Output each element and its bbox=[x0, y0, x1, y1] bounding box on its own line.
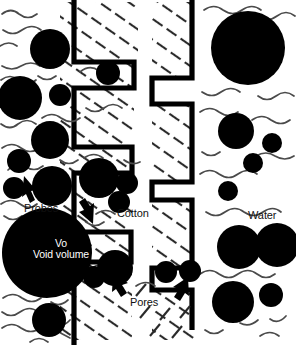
probe-circle-large bbox=[211, 11, 285, 85]
label-void-volume: Vo Void volume bbox=[8, 238, 114, 260]
probe-circle bbox=[218, 113, 254, 149]
probe-circle bbox=[7, 149, 31, 173]
probe-circle bbox=[259, 283, 283, 307]
probe-circle bbox=[3, 177, 25, 199]
probe-circle bbox=[30, 29, 70, 69]
label-void-volume-text: Void volume bbox=[8, 249, 114, 260]
probe-circle bbox=[218, 181, 238, 201]
label-probes: Probes bbox=[24, 203, 58, 215]
probe-circle-in-pore bbox=[179, 260, 201, 282]
probe-circle bbox=[217, 225, 261, 269]
probe-circle bbox=[212, 281, 254, 323]
probe-circle bbox=[262, 133, 282, 153]
probe-circle bbox=[243, 153, 263, 173]
probe-circle bbox=[79, 158, 119, 198]
label-cotton: Cotton bbox=[117, 208, 149, 220]
label-pores: Pores bbox=[130, 297, 158, 309]
probe-circle bbox=[49, 84, 71, 106]
label-water: Water bbox=[248, 210, 276, 222]
probe-circle-in-pore bbox=[155, 261, 177, 283]
probe-circle bbox=[96, 61, 120, 85]
cotton-void-volume-diagram: Probes Cotton Water Pores Vo Void volume bbox=[0, 0, 296, 354]
probe-circle bbox=[116, 172, 138, 194]
probe-circle bbox=[32, 303, 66, 337]
probe-circle bbox=[0, 76, 42, 120]
probe-circle bbox=[31, 121, 69, 159]
